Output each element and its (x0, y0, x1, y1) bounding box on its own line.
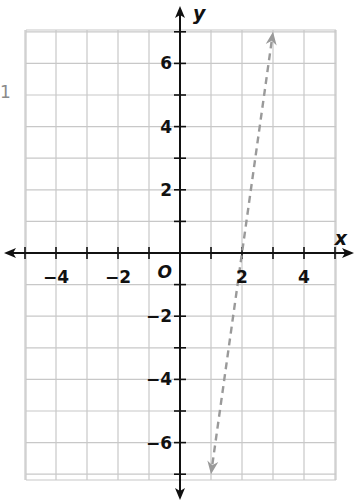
x-tick-label: −4 (43, 267, 69, 287)
x-axis-label: x (334, 227, 348, 249)
coordinate-plane: −4−224642−2−4−6Oyx (0, 0, 356, 504)
y-axis-label: y (193, 2, 207, 24)
y-tick-label: 2 (160, 180, 172, 200)
x-tick-label: −2 (105, 267, 131, 287)
y-tick-label: 6 (160, 53, 172, 73)
tick-labels: −4−224642−2−4−6Oyx (43, 2, 348, 453)
y-tick-label: −2 (146, 306, 172, 326)
x-tick-label: 4 (298, 267, 310, 287)
x-tick-label: 2 (236, 267, 248, 287)
y-tick-label: 4 (160, 117, 172, 137)
y-tick-label: −4 (146, 369, 172, 389)
origin-label: O (158, 262, 172, 282)
y-tick-label: −6 (146, 433, 172, 453)
